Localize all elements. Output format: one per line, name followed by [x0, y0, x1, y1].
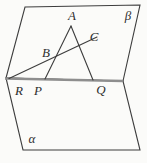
intersection-line [5, 79, 123, 82]
point-label-a: A [67, 8, 76, 23]
plane-alpha-outline [6, 78, 140, 150]
point-label-b: B [42, 45, 50, 60]
point-label-p: P [33, 83, 42, 98]
plane-label-alpha: α [29, 131, 37, 146]
point-label-r: R [14, 83, 23, 98]
diagram-svg: A B C R P Q β α [0, 0, 147, 163]
point-label-q: Q [96, 82, 106, 97]
plane-label-beta: β [124, 8, 132, 23]
geometry-diagram: A B C R P Q β α [0, 0, 147, 163]
point-label-c: C [90, 29, 99, 44]
